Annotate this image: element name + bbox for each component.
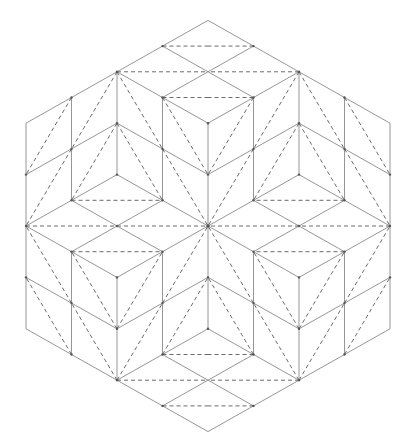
edge-line: [254, 200, 300, 226]
vertex-dot: [298, 328, 300, 330]
vertex-dot: [207, 328, 209, 330]
vertex-dot: [70, 148, 72, 150]
edge-line: [117, 226, 163, 252]
edge-line: [72, 252, 118, 278]
edge-line: [299, 123, 345, 149]
edge-line: [72, 303, 118, 329]
edge-line: [208, 380, 254, 406]
vertex-dot: [389, 173, 391, 175]
edge-line: [163, 277, 209, 303]
vertex-dot: [252, 199, 254, 201]
vertex-dot: [252, 148, 254, 150]
diagonal-dashed-line: [345, 226, 391, 303]
vertex-dot: [252, 302, 254, 304]
edge-line: [26, 226, 72, 252]
vertex-dot: [389, 225, 391, 227]
diagonal-dashed-line: [208, 98, 254, 175]
diagonal-dashed-line: [345, 277, 391, 354]
diagonal-dashed-line: [72, 252, 118, 329]
vertex-dot: [161, 148, 163, 150]
edge-line: [163, 72, 209, 98]
vertex-dot: [252, 405, 254, 407]
vertex-dot: [161, 405, 163, 407]
diagonal-dashed-line: [26, 98, 72, 175]
edge-line: [117, 123, 163, 149]
vertex-dot: [25, 225, 27, 227]
edge-line: [208, 46, 254, 72]
edge-line: [254, 175, 300, 201]
diagonal-dashed-line: [163, 98, 209, 175]
vertex-dot: [389, 276, 391, 278]
diagonal-dashed-line: [345, 149, 391, 226]
diagonal-dashed-line: [26, 277, 72, 354]
diagonal-dashed-line: [26, 149, 72, 226]
vertex-dot: [116, 276, 118, 278]
edge-line: [163, 380, 209, 406]
edge-line: [117, 303, 163, 329]
diagonal-dashed-line: [299, 123, 345, 200]
vertex-dot: [252, 96, 254, 98]
vertex-dot: [343, 148, 345, 150]
edge-line: [163, 226, 209, 252]
vertex-dot: [161, 96, 163, 98]
vertex-dot: [252, 353, 254, 355]
edge-line: [208, 72, 254, 98]
edge-line: [299, 175, 345, 201]
edge-line: [163, 149, 209, 175]
edge-line: [254, 226, 300, 252]
vertex-dot: [116, 328, 118, 330]
diagonal-dashed-line: [163, 277, 209, 354]
diagonal-dashed-line: [345, 98, 391, 175]
edge-line: [299, 303, 345, 329]
edge-line: [345, 226, 391, 252]
vertex-dot: [25, 276, 27, 278]
edge-line: [208, 355, 254, 381]
diagonal-dashed-line: [72, 123, 118, 200]
vertex-dot: [207, 276, 209, 278]
diagonal-dashed-line: [299, 303, 345, 380]
vertex-dot: [343, 251, 345, 253]
edge-line: [26, 200, 72, 226]
vertex-dot: [207, 173, 209, 175]
vertex-dot: [161, 353, 163, 355]
diagonal-dashed-line: [163, 226, 209, 303]
vertex-dot: [298, 71, 300, 73]
diagonal-dashed-line: [254, 123, 300, 200]
vertex-dot: [298, 173, 300, 175]
vertex-dot: [252, 45, 254, 47]
vertex-dot: [298, 225, 300, 227]
diagonal-dashed-line: [254, 72, 300, 149]
edge-line: [26, 277, 72, 303]
vertex-dot: [298, 122, 300, 124]
vertex-dot: [161, 45, 163, 47]
diagonal-dashed-line: [72, 303, 118, 380]
edge-line: [72, 123, 118, 149]
vertex-dot: [116, 173, 118, 175]
edge-line: [254, 123, 300, 149]
diagonal-dashed-line: [208, 277, 254, 354]
diagonal-dashed-line: [299, 72, 345, 149]
diagonal-dashed-line: [117, 123, 163, 200]
diagonal-dashed-line: [299, 252, 345, 329]
edge-line: [26, 149, 72, 175]
edge-line: [163, 200, 209, 226]
edge-line: [163, 46, 209, 72]
edge-line: [299, 252, 345, 278]
edge-line: [208, 329, 254, 355]
vertex-dot: [207, 122, 209, 124]
edge-line: [72, 175, 118, 201]
vertex-dot: [25, 173, 27, 175]
vertex-dots: [25, 45, 391, 407]
vertex-dot: [70, 353, 72, 355]
edge-line: [345, 200, 391, 226]
edge-line: [72, 226, 118, 252]
vertex-dot: [70, 251, 72, 253]
vertex-dot: [116, 379, 118, 381]
edge-line: [117, 252, 163, 278]
edge-line: [254, 303, 300, 329]
edge-line: [208, 277, 254, 303]
vertex-dot: [161, 199, 163, 201]
diagonal-dashed-line: [117, 303, 163, 380]
edge-line: [345, 277, 391, 303]
edge-line: [117, 175, 163, 201]
